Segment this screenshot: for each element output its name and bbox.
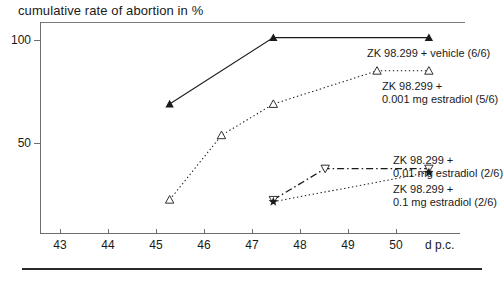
x-ticklabel-45: 45 <box>149 238 162 252</box>
legend-estradiol-001-line1: ZK 98.299 + <box>393 154 453 166</box>
bottom-rule <box>22 268 482 270</box>
legend-estradiol-01-line2: 0.1 mg estradiol (2/6) <box>393 196 497 209</box>
legend-estradiol-001: ZK 98.299 + 0.01 mg estradiol (2/6) <box>393 154 503 180</box>
data-point <box>373 67 381 75</box>
y-ticklabel-100: 100 <box>11 33 31 47</box>
abortion-rate-chart-figure: cumulative rate of abortion in % 100 50 … <box>0 0 504 284</box>
x-ticklabel-43: 43 <box>53 238 66 252</box>
legend-estradiol-001-line2: 0.01 mg estradiol (2/6) <box>393 167 503 180</box>
data-point <box>217 131 225 139</box>
legend-vehicle-line1: ZK 98.299 + vehicle (6/6) <box>367 47 490 59</box>
legend-estradiol-0001-line1: ZK 98.299 + <box>382 80 442 92</box>
x-ticklabel-46: 46 <box>197 238 210 252</box>
x-ticklabel-47: 47 <box>245 238 258 252</box>
x-ticklabel-44: 44 <box>101 238 114 252</box>
x-axis-label: d p.c. <box>425 238 454 252</box>
legend-estradiol-0001: ZK 98.299 + 0.001 mg estradiol (5/6) <box>382 80 498 106</box>
x-ticklabel-48: 48 <box>293 238 306 252</box>
y-ticklabel-50: 50 <box>18 136 31 150</box>
legend-estradiol-01: ZK 98.299 + 0.1 mg estradiol (2/6) <box>393 183 497 209</box>
legend-estradiol-01-line1: ZK 98.299 + <box>393 183 453 195</box>
data-point <box>165 100 173 108</box>
data-point <box>269 100 277 108</box>
x-ticklabel-49: 49 <box>341 238 354 252</box>
chart-title: cumulative rate of abortion in % <box>18 3 203 18</box>
legend-vehicle: ZK 98.299 + vehicle (6/6) <box>367 47 490 60</box>
legend-estradiol-0001-line2: 0.001 mg estradiol (5/6) <box>382 93 498 106</box>
x-ticklabel-50: 50 <box>389 238 402 252</box>
